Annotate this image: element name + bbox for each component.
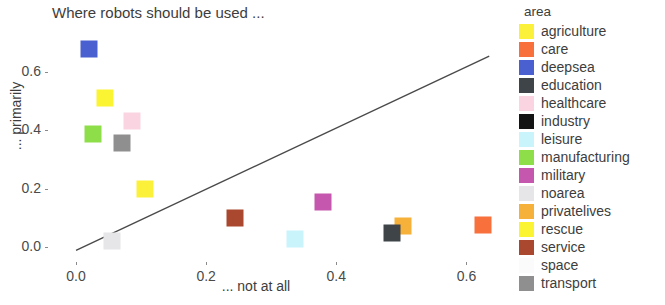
legend-item-leisure[interactable]: leisure [519,130,665,148]
legend-label: education [541,78,602,92]
data-point-service [227,209,244,226]
x-axis-label: ... not at all [0,278,512,294]
legend-swatch-service [519,240,534,255]
legend-swatch-privatelives [519,204,534,219]
legend-swatch-education [519,78,534,93]
legend-swatch-rescue [519,222,534,237]
y-tick-mark [45,247,48,248]
legend-label: care [541,42,568,56]
chart-root: Where robots should be used ... 0.00.20.… [0,0,665,305]
legend-swatch-noarea [519,186,534,201]
legend-label: military [541,168,585,182]
y-tick-mark [45,130,48,131]
legend-item-deepsea[interactable]: deepsea [519,58,665,76]
plot-area [50,24,512,260]
legend-item-space[interactable]: space [519,256,665,274]
legend-label: agriculture [541,24,606,38]
y-tick-label: 0.2 [0,180,41,196]
x-tick-mark [336,262,337,265]
data-point-manufacturing [84,126,101,143]
legend-swatch-industry [519,114,534,129]
legend-label: privatelives [541,204,611,218]
data-point-education [384,225,401,242]
legend-item-transport[interactable]: transport [519,274,665,292]
chart-title: Where robots should be used ... [52,4,265,21]
legend-swatch-manufacturing [519,150,534,165]
legend-label: space [541,258,578,272]
legend-label: service [541,240,585,254]
legend-swatch-care [519,42,534,57]
legend-item-education[interactable]: education [519,76,665,94]
data-point-military [315,193,332,210]
data-point-deepsea [81,40,98,57]
data-point-rescue [97,90,114,107]
legend-item-military[interactable]: military [519,166,665,184]
legend: area agriculturecaredeepseaeducationheal… [519,4,665,292]
data-point-care [474,217,491,234]
legend-item-agriculture[interactable]: agriculture [519,22,665,40]
data-point-noarea [104,233,121,250]
x-tick-mark [466,262,467,265]
y-tick-mark [45,189,48,190]
y-tick-label: 0.0 [0,238,41,254]
legend-swatch-transport [519,276,534,291]
y-axis-label: ... primarily [8,56,24,176]
legend-item-rescue[interactable]: rescue [519,220,665,238]
legend-item-list: agriculturecaredeepseaeducationhealthcar… [519,22,665,292]
legend-label: transport [541,276,596,290]
legend-label: deepsea [541,60,595,74]
legend-swatch-agriculture [519,24,534,39]
legend-swatch-space [519,258,534,273]
data-point-leisure [286,231,303,248]
legend-swatch-military [519,168,534,183]
legend-label: manufacturing [541,150,630,164]
legend-title: area [524,4,665,19]
data-point-agriculture [137,180,154,197]
legend-item-manufacturing[interactable]: manufacturing [519,148,665,166]
legend-swatch-deepsea [519,60,534,75]
x-tick-mark [206,262,207,265]
legend-label: noarea [541,186,585,200]
data-point-healthcare [123,113,140,130]
legend-item-privatelives[interactable]: privatelives [519,202,665,220]
legend-label: leisure [541,132,582,146]
legend-item-care[interactable]: care [519,40,665,58]
legend-item-noarea[interactable]: noarea [519,184,665,202]
legend-item-service[interactable]: service [519,238,665,256]
legend-swatch-healthcare [519,96,534,111]
legend-label: industry [541,114,590,128]
legend-label: rescue [541,222,583,236]
legend-item-healthcare[interactable]: healthcare [519,94,665,112]
legend-label: healthcare [541,96,606,110]
legend-item-industry[interactable]: industry [519,112,665,130]
x-tick-mark [76,262,77,265]
data-point-transport [114,135,131,152]
y-tick-mark [45,72,48,73]
legend-swatch-leisure [519,132,534,147]
